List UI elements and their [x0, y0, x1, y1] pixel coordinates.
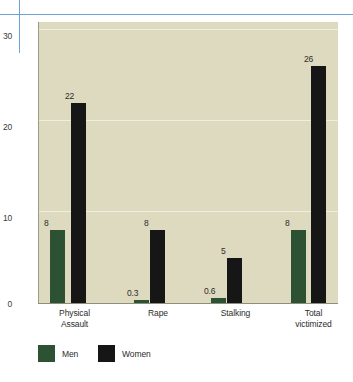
value-label-women-stalking: 5 [221, 246, 226, 256]
value-label-men-physical-assault: 8 [44, 218, 49, 228]
value-label-men-stalking: 0.6 [204, 286, 215, 296]
legend-item-men: Men [38, 345, 78, 362]
y-tick-label-0: 0 [0, 299, 12, 309]
bar-women-stalking [227, 258, 242, 303]
category-label-total-victimized: Total victimized [281, 308, 346, 330]
value-label-women-total-victimized: 26 [304, 54, 313, 64]
legend-swatch-women-icon [98, 345, 115, 362]
y-tick-label-10: 10 [0, 213, 12, 223]
bar-men-physical-assault [50, 230, 65, 303]
value-label-men-total-victimized: 8 [285, 218, 290, 228]
bar-women-physical-assault [71, 103, 86, 303]
value-label-men-rape: 0.3 [127, 288, 138, 298]
legend-item-women: Women [98, 345, 151, 362]
y-tick-label-30: 30 [0, 31, 12, 41]
bar-women-rape [150, 230, 165, 303]
gridline-30 [39, 29, 338, 30]
bar-men-total-victimized [291, 230, 306, 303]
bar-men-rape [134, 300, 149, 303]
bar-women-total-victimized [311, 66, 326, 303]
bar-chart: 30 20 10 0 8 22 0.3 8 0.6 5 8 26 Physica… [0, 0, 353, 382]
legend-label-men: Men [62, 349, 78, 359]
value-label-women-physical-assault: 22 [65, 91, 74, 101]
y-tick-label-20: 20 [0, 122, 12, 132]
plot-area: 8 22 0.3 8 0.6 5 8 26 [38, 22, 338, 304]
bar-men-stalking [211, 298, 226, 303]
category-label-physical-assault: Physical Assault [42, 308, 107, 330]
category-label-rape: Rape [128, 308, 188, 319]
value-label-women-rape: 8 [144, 218, 149, 228]
category-label-stalking: Stalking [203, 308, 268, 319]
legend-swatch-men-icon [38, 345, 55, 362]
legend-label-women: Women [122, 349, 151, 359]
